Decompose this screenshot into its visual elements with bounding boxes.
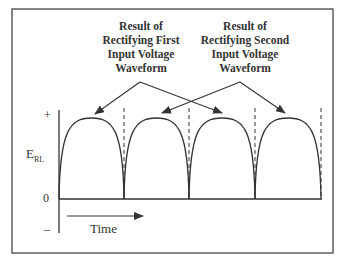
y-axis-label-main: E (26, 146, 34, 161)
time-label: Time (90, 221, 117, 237)
rectified-waveform (59, 118, 321, 199)
y-axis-label: ERL (26, 146, 44, 164)
annotation-first-line1: Result of (86, 19, 196, 33)
annotation-first: Result of Rectifying First Input Voltage… (86, 19, 196, 75)
annotation-first-line3: Input Voltage (86, 47, 196, 61)
rectifier-diagram: Result of Rectifying First Input Voltage… (0, 0, 340, 261)
annotation-second-line3: Input Voltage (190, 47, 300, 61)
annotation-first-line4: Waveform (86, 61, 196, 75)
annotation-second-line1: Result of (190, 19, 300, 33)
period-markers (124, 108, 321, 199)
plus-label: + (44, 108, 51, 123)
minus-label: – (44, 222, 50, 237)
zero-label: 0 (43, 191, 49, 206)
annotation-second-line2: Rectifying Second (190, 33, 300, 47)
y-axis-label-sub: RL (34, 155, 44, 164)
annotation-second: Result of Rectifying Second Input Voltag… (190, 19, 300, 75)
annotation-first-line2: Rectifying First (86, 33, 196, 47)
annotation-second-line4: Waveform (190, 61, 300, 75)
